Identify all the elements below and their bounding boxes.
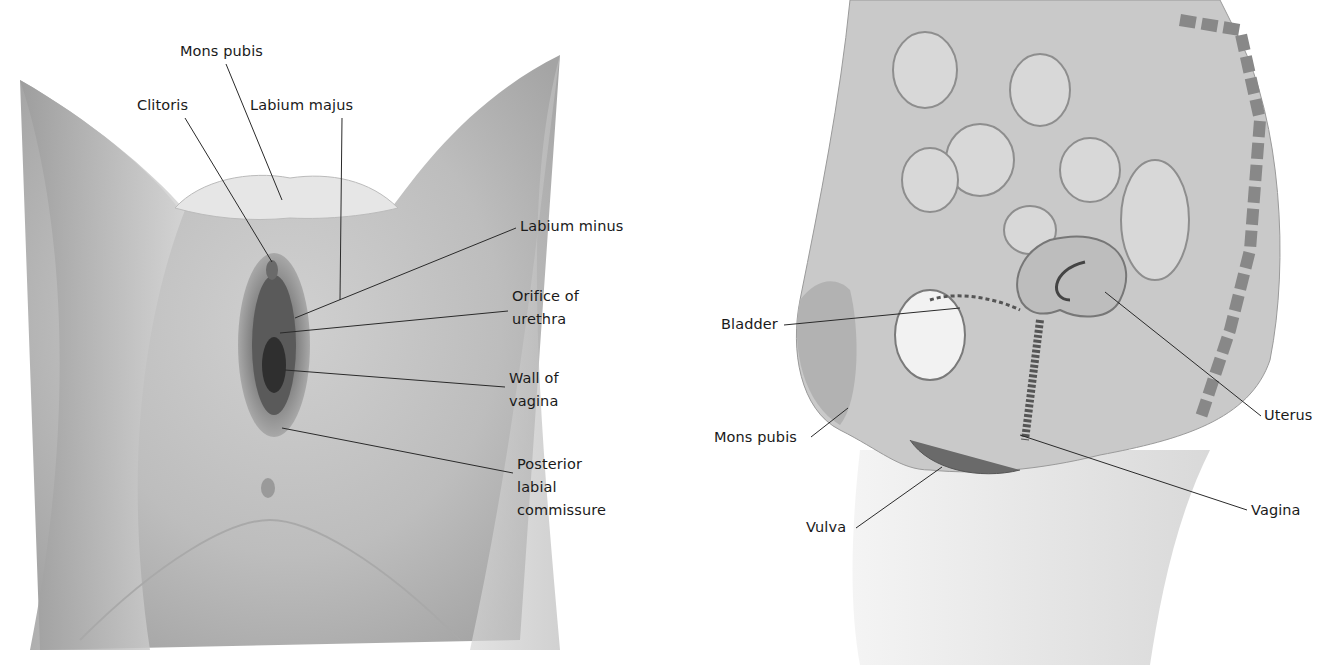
leader-line-labium-minus xyxy=(295,228,516,318)
label-vulva: Vulva xyxy=(806,516,846,539)
label-orifice-of-urethra: Orifice of urethra xyxy=(512,285,579,331)
leader-line-posterior-labial-commissure xyxy=(282,428,513,473)
label-mons-pubis-sagittal: Mons pubis xyxy=(714,426,797,449)
label-mons-pubis: Mons pubis xyxy=(180,40,263,63)
label-vagina: Vagina xyxy=(1251,499,1301,522)
label-wall-of-vagina: Wall of vagina xyxy=(509,367,559,413)
leader-line-mons-pubis xyxy=(226,64,282,200)
label-labium-majus: Labium majus xyxy=(250,94,353,117)
label-clitoris: Clitoris xyxy=(137,94,188,117)
leader-line-labium-majus xyxy=(340,118,342,300)
leader-line-vulva xyxy=(856,467,942,528)
sagittal-section-diagram: Bladder Mons pubis Uterus Vagina Vulva xyxy=(670,0,1341,665)
leader-line-mons-pubis-sagittal xyxy=(811,408,848,437)
leader-line-uterus xyxy=(1105,292,1261,416)
leader-line-bladder xyxy=(784,308,960,325)
label-bladder: Bladder xyxy=(721,313,778,336)
label-posterior-labial-commissure: Posterior labial commissure xyxy=(517,453,606,522)
leader-line-vagina xyxy=(1020,435,1247,510)
leader-line-clitoris xyxy=(185,118,272,262)
external-genitalia-diagram: Mons pubis Clitoris Labium majus Labium … xyxy=(0,0,670,665)
label-uterus: Uterus xyxy=(1264,404,1313,427)
label-labium-minus: Labium minus xyxy=(520,215,623,238)
leader-line-wall-of-vagina xyxy=(285,370,505,387)
leader-line-orifice-of-urethra xyxy=(280,311,508,333)
